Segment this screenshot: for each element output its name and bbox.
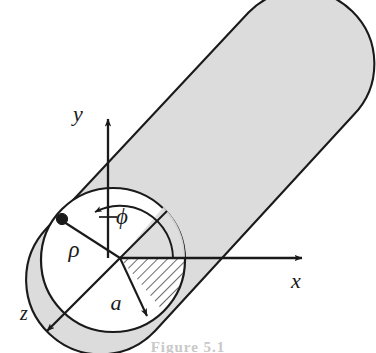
axis-label-z: z [19,302,28,324]
figure-container: y x z ϕ ρ a Figure 5.1 [0,0,376,353]
axis-label-y: y [71,101,83,126]
label-rho: ρ [67,237,79,262]
label-a: a [111,290,122,315]
axis-label-x: x [290,268,301,293]
field-point-marker [56,213,67,224]
cylinder-coordinate-diagram: y x z ϕ ρ a [0,0,376,353]
figure-caption: Figure 5.1 [0,341,376,353]
label-phi: ϕ [116,204,128,229]
